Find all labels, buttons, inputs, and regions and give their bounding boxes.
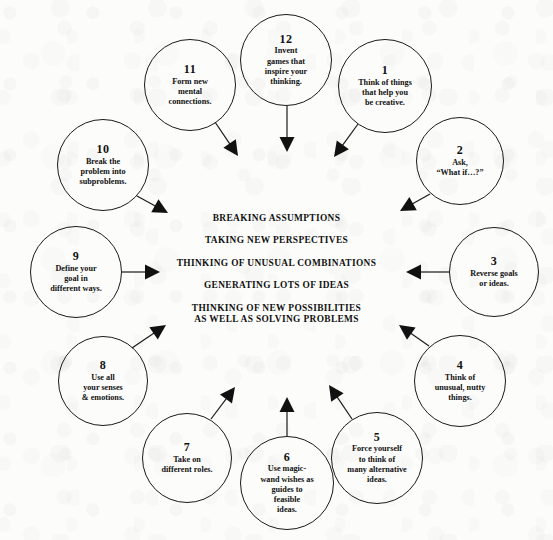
diagram-canvas: 1Think of things that help you be creati… (0, 0, 553, 540)
arrow-shaft (132, 333, 155, 348)
arrow-shaft (137, 196, 156, 207)
center-text-line: TAKING NEW PERSPECTIVES (150, 235, 403, 246)
center-text-line: GENERATING LOTS OF IDEAS (150, 280, 403, 291)
arrow-shaft (215, 122, 230, 145)
arrow-shaft (337, 396, 352, 419)
arrow-from-node-10 (137, 196, 168, 213)
node-circle-4[interactable]: 4Think of unusual, nutty things. (414, 335, 506, 427)
arrow-head (149, 325, 166, 340)
node-label: Form new mental connections. (165, 77, 216, 108)
node-label: Use magic- wand wishes as guides to feas… (256, 464, 317, 515)
arrow-head (334, 140, 349, 157)
arrow-head (399, 325, 416, 340)
node-circle-6[interactable]: 6Use magic- wand wishes as guides to fea… (240, 436, 334, 530)
node-number: 7 (184, 441, 191, 454)
node-label: Break the problem into subproblems. (76, 157, 131, 188)
arrow-from-node-2 (400, 194, 430, 211)
node-circle-9[interactable]: 9Define your goal in different ways. (30, 226, 122, 318)
center-text-line: THINKING OF NEW POSSIBILITIES AS WELL AS… (150, 303, 403, 326)
node-label: Force yourself to think of many alternat… (343, 444, 410, 485)
node-number: 12 (280, 33, 293, 46)
node-circle-7[interactable]: 7Take on different roles. (142, 413, 232, 503)
center-text-line: BREAKING ASSUMPTIONS (150, 213, 403, 224)
arrow-head (280, 137, 295, 152)
arrow-shaft (211, 398, 227, 419)
arrow-head (280, 397, 295, 412)
center-text-line: THINKING OF UNUSUAL COMBINATIONS (150, 258, 403, 269)
node-number: 8 (100, 359, 107, 372)
node-circle-11[interactable]: 11Form new mental connections. (144, 39, 236, 131)
arrow-from-node-4 (399, 325, 429, 346)
arrow-from-node-6 (280, 397, 295, 436)
arrow-head (329, 385, 344, 402)
node-label: Invent games that inspire your thinking. (261, 46, 311, 87)
center-text-block: BREAKING ASSUMPTIONSTAKING NEW PERSPECTI… (150, 213, 403, 326)
arrow-shaft (410, 333, 429, 346)
node-circle-10[interactable]: 10Break the problem into subproblems. (57, 119, 149, 211)
arrow-head (220, 387, 235, 404)
node-number: 11 (184, 63, 196, 76)
arrow-from-node-11 (215, 122, 238, 156)
node-number: 6 (284, 451, 291, 464)
node-circle-8[interactable]: 8Use all your senses & emotions. (58, 336, 148, 426)
arrow-head (151, 199, 168, 213)
arrow-head (400, 197, 417, 211)
node-number: 10 (97, 143, 110, 156)
arrow-from-node-12 (280, 106, 295, 152)
arrow-head (406, 265, 421, 280)
node-label: Define your goal in different ways. (46, 264, 106, 295)
node-circle-3[interactable]: 3Reverse goals or ideas. (449, 227, 539, 317)
arrow-from-node-1 (334, 124, 358, 157)
node-number: 4 (457, 359, 464, 372)
node-number: 2 (457, 144, 464, 157)
arrow-shaft (412, 194, 430, 204)
node-number: 1 (382, 64, 389, 77)
arrow-from-node-7 (211, 387, 235, 419)
node-number: 3 (491, 255, 498, 268)
arrow-from-node-8 (132, 325, 166, 348)
node-label: Ask, “What if…?” (432, 158, 487, 178)
arrow-shaft (342, 124, 358, 146)
node-number: 5 (374, 431, 381, 444)
node-label: Take on different roles. (157, 455, 216, 475)
node-number: 9 (73, 250, 80, 263)
node-label: Think of things that help you be creativ… (354, 78, 416, 109)
node-label: Reverse goals or ideas. (466, 269, 522, 289)
arrow-from-node-5 (329, 385, 352, 419)
node-circle-12[interactable]: 12Invent games that inspire your thinkin… (240, 14, 332, 106)
node-circle-5[interactable]: 5Force yourself to think of many alterna… (331, 412, 423, 504)
node-circle-1[interactable]: 1Think of things that help you be creati… (338, 39, 432, 133)
node-circle-2[interactable]: 2Ask, “What if…?” (416, 117, 504, 205)
node-label: Think of unusual, nutty things. (431, 373, 490, 404)
arrow-head (223, 139, 238, 156)
node-label: Use all your senses & emotions. (78, 373, 128, 404)
arrow-from-node-3 (406, 265, 449, 280)
